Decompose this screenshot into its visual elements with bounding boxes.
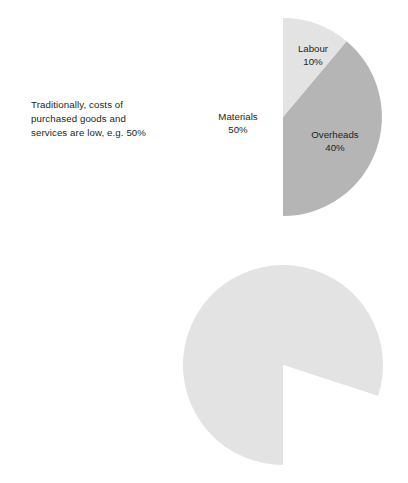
pie-label-overheads: Overheads 40% <box>298 128 372 155</box>
figure-root: Traditionally, costs of purchased goods … <box>0 0 408 483</box>
panel-traditional: Traditionally, costs of purchased goods … <box>0 0 408 250</box>
panel-outsourced: Outsourcing business increases the purch… <box>0 250 408 483</box>
pie-slice-purchased-goods <box>183 265 383 465</box>
pie-chart-outsourced <box>0 250 408 483</box>
caption-traditional: Traditionally, costs of purchased goods … <box>31 98 201 141</box>
pie-label-labour: Labour 10% <box>282 42 344 69</box>
pie-label-materials: Materials 50% <box>196 110 280 137</box>
